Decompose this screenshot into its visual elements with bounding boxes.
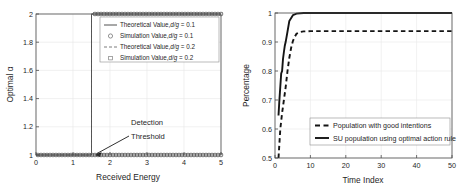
left-legend-label-3: Theoretical Value,d/g = 0.2: [120, 43, 195, 51]
left-legend: Theoretical Value,d/g = 0.1 Simulation V…: [100, 17, 219, 62]
right-xtick-3: 30: [377, 161, 385, 170]
right-ytick-3: 0.8: [262, 67, 272, 76]
right-legend-label-1: Population with good intentions: [333, 122, 432, 130]
left-xtick-4: 4: [182, 158, 186, 167]
left-xtick-0: 0: [34, 158, 38, 167]
left-ytick-5: 2: [29, 10, 33, 19]
left-legend-label-1: Theoretical Value,d/g = 0.1: [120, 21, 195, 29]
right-xtick-4: 40: [413, 161, 421, 170]
left-legend-label-1-post: = 0.1: [179, 21, 195, 28]
left-yaxis-label: Optimal α: [5, 66, 15, 102]
right-xaxis-label: Time Index: [342, 175, 384, 185]
chart-panel-left: Detection Threshold 0 1 2 3 4 5 1 1.2: [0, 0, 234, 190]
left-ytick-3: 1.6: [23, 66, 33, 75]
left-ytick-1: 1.2: [23, 122, 33, 131]
right-xtick-5: 50: [448, 161, 456, 170]
figure-container: Detection Threshold 0 1 2 3 4 5 1 1.2: [0, 0, 469, 190]
left-xtick-5: 5: [219, 158, 223, 167]
left-legend-label-2-pre: Simulation Value,: [120, 32, 169, 39]
left-chart-svg: Detection Threshold 0 1 2 3 4 5 1 1.2: [0, 0, 234, 190]
left-xtick-2: 2: [108, 158, 112, 167]
right-xtick-2: 20: [342, 161, 350, 170]
right-yaxis-label: Percentage: [241, 64, 251, 107]
left-legend-label-2: Simulation Value,d/g = 0.1: [120, 32, 194, 40]
left-legend-label-4-pre: Simulation Value,: [120, 54, 169, 61]
right-ytick-1: 0.6: [262, 125, 272, 134]
left-annotation-line1: Detection: [131, 118, 163, 127]
right-ytick-5: 1: [268, 9, 272, 18]
left-xtick-1: 1: [71, 158, 75, 167]
left-annotation-line2: Threshold: [131, 132, 165, 141]
left-xaxis-label: Received Energy: [96, 172, 161, 182]
left-legend-label-2-post: = 0.1: [177, 32, 193, 39]
right-xtick-1: 10: [306, 161, 314, 170]
right-ytick-0: 0.5: [262, 154, 272, 163]
left-legend-label-4: Simulation Value,d/g = 0.2: [120, 54, 194, 62]
right-ytick-2: 0.7: [262, 96, 272, 105]
left-ytick-4: 1.8: [23, 38, 33, 47]
right-ytick-4: 0.9: [262, 38, 272, 47]
left-legend-label-4-post: = 0.2: [177, 54, 193, 61]
right-xtick-0: 0: [273, 161, 277, 170]
right-legend-label-2: SU population using optimal action rule: [333, 135, 456, 143]
left-ytick-0: 1: [29, 151, 33, 160]
chart-panel-right: 0 10 20 30 40 50 0.5 0.6 0.7 0.8 0.9 1 T…: [234, 0, 468, 190]
left-xtick-3: 3: [145, 158, 149, 167]
left-legend-label-1-pre: Theoretical Value,: [120, 21, 171, 28]
right-legend: Population with good intentions SU popul…: [310, 118, 456, 145]
left-legend-label-3-pre: Theoretical Value,: [120, 43, 171, 50]
left-ytick-2: 1.4: [23, 94, 33, 103]
left-legend-label-3-post: = 0.2: [179, 43, 195, 50]
right-chart-svg: 0 10 20 30 40 50 0.5 0.6 0.7 0.8 0.9 1 T…: [234, 0, 468, 190]
